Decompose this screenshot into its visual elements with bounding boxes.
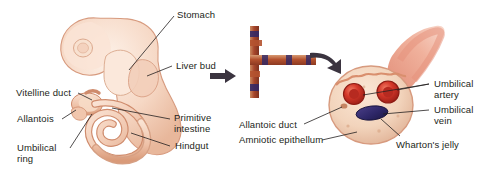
label-whartons-jelly: Wharton's jelly bbox=[396, 139, 459, 150]
label-liver-bud: Liver bud bbox=[176, 60, 216, 71]
label-primitive-intestine: Primitive intestine bbox=[174, 112, 211, 134]
arrow-embryo-to-vessels bbox=[210, 69, 236, 83]
vessel-branch bbox=[250, 40, 262, 46]
embryo-illustration bbox=[61, 18, 181, 161]
label-vitelline-duct: Vitelline duct bbox=[16, 87, 71, 98]
label-amniotic-epithelium: Amniotic epithellum bbox=[239, 134, 323, 145]
label-stomach: Stomach bbox=[177, 9, 215, 20]
jelly-speck bbox=[397, 115, 400, 118]
label-allantois: Allantois bbox=[17, 113, 54, 124]
jelly-speck bbox=[363, 86, 366, 89]
vessel-branch-2 bbox=[250, 71, 260, 77]
umbilical-cord-illustration bbox=[329, 26, 445, 144]
vitelline-duct bbox=[86, 91, 99, 93]
optic-vesicle-inner bbox=[78, 43, 89, 53]
umbilical-artery-right-lumen bbox=[383, 87, 393, 97]
label-umbilical-vein: Umbilical vein bbox=[434, 104, 473, 126]
label-umbilical-ring: Umbilical ring bbox=[17, 142, 56, 164]
umbilical-artery-left-lumen bbox=[349, 89, 359, 99]
label-allantoic-duct: Allantoic duct bbox=[239, 119, 297, 130]
illustration-layer bbox=[0, 0, 495, 180]
allantoic-duct bbox=[341, 103, 348, 108]
jelly-speck bbox=[377, 129, 380, 132]
label-hindgut: Hindgut bbox=[175, 140, 208, 151]
label-umbilical-artery: Umbilical artery bbox=[434, 78, 473, 100]
jelly-speck bbox=[346, 124, 349, 127]
embryology-figure: Stomach Liver bud Primitive intestine Hi… bbox=[0, 0, 495, 180]
vessel-junction-illustration bbox=[250, 26, 316, 98]
allantois bbox=[71, 107, 86, 120]
